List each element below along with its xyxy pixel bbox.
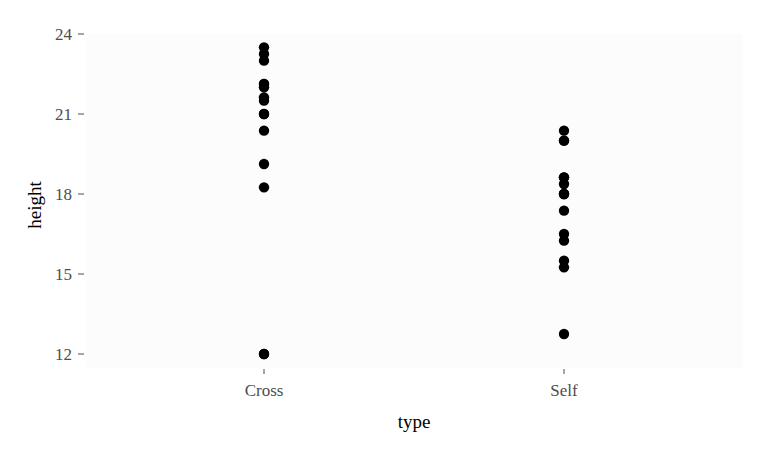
data-point-cross: [259, 92, 269, 102]
data-point-cross: [259, 159, 269, 169]
x-tick-label-cross: Cross: [245, 381, 284, 400]
y-tick-label: 18: [55, 185, 72, 204]
data-point-cross: [259, 55, 269, 65]
y-axis: 1215182124: [55, 25, 84, 364]
y-tick-label: 15: [55, 265, 72, 284]
data-point-cross: [259, 182, 269, 192]
y-axis-title: height: [24, 181, 45, 229]
scatter-chart: 1215182124 CrossSelf height type: [0, 0, 764, 452]
data-point-self: [559, 205, 569, 215]
plot-panel: [86, 34, 743, 368]
y-tick-label: 21: [55, 105, 72, 124]
data-point-self: [559, 189, 569, 199]
x-tick-label-self: Self: [550, 381, 578, 400]
data-point-cross: [259, 109, 269, 119]
data-point-cross: [259, 125, 269, 135]
data-point-self: [559, 135, 569, 145]
data-point-self: [559, 172, 569, 182]
data-point-self: [559, 125, 569, 135]
data-point-self: [559, 255, 569, 265]
data-point-self: [559, 329, 569, 339]
y-tick-label: 12: [55, 345, 72, 364]
data-point-self: [559, 235, 569, 245]
y-tick-label: 24: [55, 25, 73, 44]
x-axis-title: type: [398, 411, 431, 432]
x-axis: CrossSelf: [245, 369, 578, 400]
data-point-cross: [259, 349, 269, 359]
data-point-cross: [259, 79, 269, 89]
